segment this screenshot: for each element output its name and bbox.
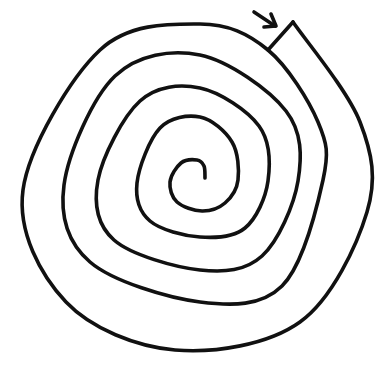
spiral-maze — [0, 0, 387, 366]
